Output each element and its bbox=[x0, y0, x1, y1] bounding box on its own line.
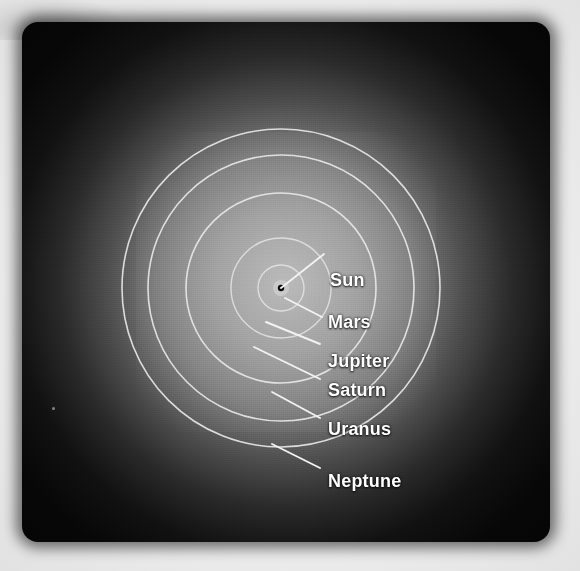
plate-dust-speck bbox=[52, 407, 55, 410]
leader-line-neptune bbox=[272, 444, 320, 468]
astronomical-plate: Sun Mars Jupiter Saturn Uranus Neptune bbox=[22, 22, 550, 542]
planet-label-mars: Mars bbox=[328, 313, 371, 331]
planet-label-jupiter: Jupiter bbox=[328, 352, 389, 370]
orbit-vector-layer bbox=[22, 22, 550, 542]
diagram-stage: Sun Mars Jupiter Saturn Uranus Neptune bbox=[0, 0, 580, 571]
planet-label-saturn: Saturn bbox=[328, 381, 386, 399]
planet-label-neptune: Neptune bbox=[328, 472, 401, 490]
leader-line-uranus bbox=[272, 392, 320, 418]
leader-line-mars bbox=[285, 298, 322, 317]
leader-line-saturn bbox=[254, 347, 320, 379]
leader-line-sun bbox=[281, 254, 324, 288]
planet-label-sun: Sun bbox=[330, 271, 365, 289]
planet-label-uranus: Uranus bbox=[328, 420, 391, 438]
leader-line-jupiter bbox=[266, 322, 320, 344]
